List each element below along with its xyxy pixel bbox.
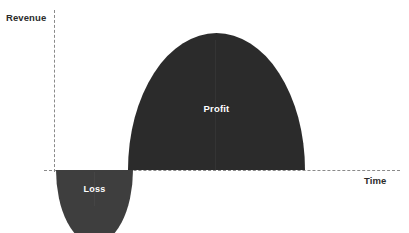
chart-canvas: Revenue Time Profit Loss: [0, 0, 409, 233]
x-axis-label: Time: [364, 175, 386, 186]
y-axis-label: Revenue: [6, 12, 46, 23]
profit-region-label: Profit: [128, 103, 305, 114]
y-axis-dashed-line: [54, 10, 55, 172]
loss-region-shape: [56, 96, 133, 233]
loss-region-label: Loss: [56, 184, 133, 194]
profit-region-shape: [128, 33, 305, 233]
